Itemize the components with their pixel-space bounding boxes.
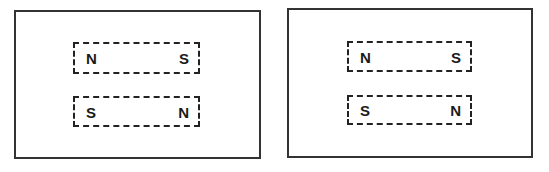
panel-right-magnet-top: N S	[347, 41, 472, 72]
pole-label: S	[360, 103, 370, 118]
pole-label: S	[451, 49, 461, 64]
panel-right-magnet-bottom: S N	[347, 95, 472, 125]
panel-left-magnet-bottom: S N	[73, 96, 200, 127]
panel-left-frame	[14, 10, 261, 159]
pole-label: N	[450, 103, 461, 118]
pole-label: S	[179, 51, 189, 66]
panel-left-magnet-top: N S	[73, 42, 200, 74]
pole-label: N	[86, 51, 97, 66]
pole-label: N	[178, 104, 189, 119]
panel-right-frame	[287, 8, 533, 158]
pole-label: S	[86, 104, 96, 119]
pole-label: N	[360, 49, 371, 64]
